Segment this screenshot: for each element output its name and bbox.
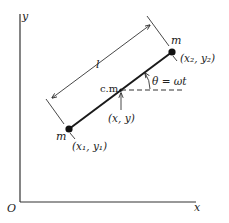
cm-coords: (x, y) xyxy=(108,112,135,124)
x-axis-label: x xyxy=(194,201,201,214)
mass-1 xyxy=(65,125,72,132)
mass-1-label: m xyxy=(56,130,66,143)
dimension-tick-1 xyxy=(46,99,64,124)
mass-1-coords: (x₁, y₁) xyxy=(72,140,107,152)
origin-label: O xyxy=(7,202,16,215)
diagram-canvas: y x O l m m (x₁, y₁) (x₂, y₂) c.m. (x, y… xyxy=(0,0,229,223)
angle-arc xyxy=(145,73,150,89)
cm-label: c.m. xyxy=(100,83,121,94)
length-label: l xyxy=(96,58,100,71)
rotor-diagram: y x O l m m (x₁, y₁) (x₂, y₂) c.m. (x, y… xyxy=(0,0,229,223)
dimension-tick-3 xyxy=(70,133,75,139)
dimension-tick-2 xyxy=(147,16,169,46)
y-axis-label: y xyxy=(21,10,29,23)
mass-2-coords: (x₂, y₂) xyxy=(180,52,215,64)
mass-2 xyxy=(168,48,175,55)
dimension-tick-4 xyxy=(173,56,177,61)
mass-2-label: m xyxy=(171,34,181,47)
angle-label: θ = ωt xyxy=(152,75,187,87)
